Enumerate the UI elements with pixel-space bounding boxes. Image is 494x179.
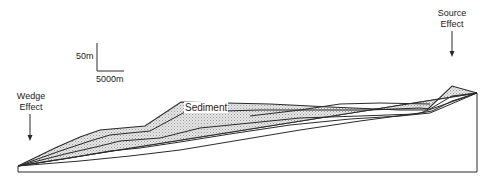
- sediment-label: Sediment: [184, 102, 228, 113]
- scale-bar-horizontal-label: 5000m: [96, 74, 124, 85]
- source-effect-label-line2: Effect: [432, 19, 472, 30]
- wedge-effect-arrow: [28, 114, 33, 141]
- source-effect-arrow: [450, 31, 455, 57]
- scale-bar-vertical-label: 50m: [76, 51, 94, 62]
- wedge-effect-label-line2: Effect: [12, 102, 50, 113]
- source-effect-label: Source Effect: [432, 8, 472, 30]
- source-effect-label-line1: Source: [432, 8, 472, 19]
- scale-bar: [97, 43, 124, 71]
- sediment-cross-section-diagram: [0, 0, 494, 179]
- wedge-effect-label: Wedge Effect: [12, 91, 50, 113]
- wedge-effect-label-line1: Wedge: [12, 91, 50, 102]
